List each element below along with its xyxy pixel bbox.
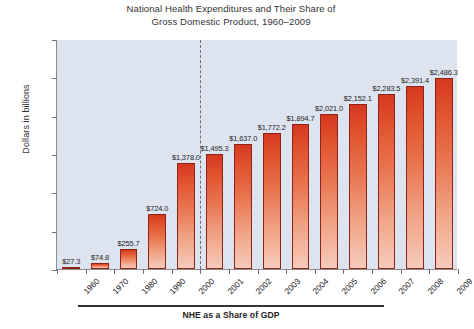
bar: $74.8 [91,263,109,269]
bar-slot: $1,637.0 [229,40,258,269]
footer-caption: NHE as a Share of GDP [0,310,462,320]
bar-slot: $2,152.1 [343,40,372,269]
x-tick-label: 2009 [454,276,474,296]
bar-value-label: $1,637.0 [229,134,257,143]
bar-value-label: $2,152.1 [344,94,372,103]
bar-slot: $1,894.7 [286,40,315,269]
bar-value-label: $2,283.5 [372,84,400,93]
x-tick-mark [401,269,402,274]
bar-slot: $74.8 [86,40,115,269]
x-tick-mark [258,269,259,274]
x-tick-label: 2006 [368,276,388,296]
bar-value-label: $2,391.4 [401,76,429,85]
bar-value-label: $74.8 [91,253,109,262]
x-tick-mark [372,269,373,274]
bar-value-label: $2,486.3 [430,68,458,77]
y-axis-title: Dollars in billions [21,49,31,189]
chart-title-line-2: Gross Domestic Product, 1960–2009 [0,16,462,29]
x-tick-label: 2003 [282,276,302,296]
x-tick-mark [86,269,87,274]
x-tick-mark [200,269,201,274]
x-tick-mark [286,269,287,274]
bar: $255.7 [120,249,138,269]
x-tick-label: 2007 [397,276,417,296]
x-tick-mark [343,269,344,274]
x-tick-label: 1970 [110,276,130,296]
chart-title: National Health Expenditures and Their S… [0,3,462,28]
x-tick-mark [315,269,316,274]
x-tick-label: 2004 [311,276,331,296]
bar: $724.0 [148,214,166,270]
x-tick-label: 1960 [82,276,102,296]
y-tick-mark [52,78,57,79]
bar-slot: $1,772.2 [258,40,287,269]
bar-value-label: $27.3 [62,257,80,266]
bar: $2,283.5 [378,94,396,269]
chart-title-line-1: National Health Expenditures and Their S… [0,3,462,16]
bar-slot: $2,486.3 [429,40,458,269]
x-tick-label: 2002 [254,276,274,296]
bar-slot: $255.7 [114,40,143,269]
bar-slot: $1,378.0 [172,40,201,269]
x-tick-label: 2008 [425,276,445,296]
bar-slot: $1,495.3 [200,40,229,269]
period-divider-line [200,40,201,269]
bar-value-label: $2,021.0 [315,104,343,113]
bar: $1,772.2 [263,133,281,269]
x-tick-mark [172,269,173,274]
x-tick-mark [229,269,230,274]
bar: $2,021.0 [320,114,338,269]
bar-value-label: $724.0 [146,204,168,213]
x-tick-mark [57,269,58,274]
y-tick-mark [52,40,57,41]
bar: $2,152.1 [349,104,367,269]
x-tick-label: 1980 [139,276,159,296]
bar-slot: $2,391.4 [401,40,430,269]
bar-slot: $27.3 [57,40,86,269]
x-tick-mark [143,269,144,274]
bar-value-label: $1,894.7 [286,114,314,123]
bar: $1,894.7 [292,124,310,269]
bar: $1,378.0 [177,163,195,269]
bar: $27.3 [62,267,80,269]
x-tick-label: 2000 [196,276,216,296]
y-tick-mark [52,155,57,156]
bar-value-label: $255.7 [118,239,140,248]
bar-slot: $724.0 [143,40,172,269]
bar-slot: $2,283.5 [372,40,401,269]
x-tick-mark [429,269,430,274]
x-tick-mark [458,269,459,274]
x-tick-label: 2005 [340,276,360,296]
bar-value-label: $1,772.2 [258,123,286,132]
plot-area: $0$500$1,000$1,500$2,000$2,500$3,000 $27… [56,40,457,270]
footer-divider [78,305,384,307]
bar-value-label: $1,495.3 [201,144,229,153]
bar: $2,486.3 [435,78,453,269]
bar: $1,495.3 [206,154,224,269]
x-tick-label: 1990 [168,276,188,296]
bar-value-label: $1,378.0 [172,153,200,162]
y-tick-mark [52,117,57,118]
x-tick-mark [114,269,115,274]
bar: $2,391.4 [406,86,424,269]
bar-slot: $2,021.0 [315,40,344,269]
x-tick-label: 2001 [225,276,245,296]
bar: $1,637.0 [234,144,252,270]
y-tick-mark [52,193,57,194]
y-tick-mark [52,232,57,233]
